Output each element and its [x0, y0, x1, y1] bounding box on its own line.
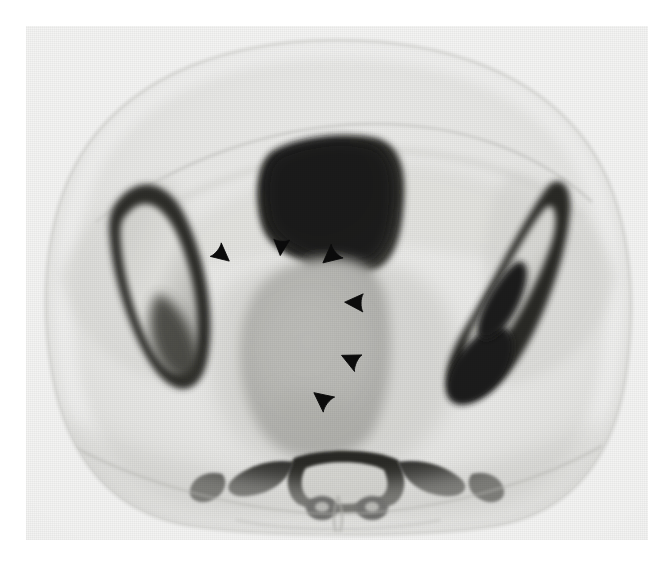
ct-figure	[0, 0, 670, 563]
arrowhead-icon	[341, 289, 367, 315]
ct-scan-image	[26, 26, 648, 540]
arrowhead-2-marker	[269, 235, 293, 259]
arrowhead-icon	[269, 235, 293, 259]
ct-slice-render	[26, 26, 648, 540]
arrowhead-4-marker	[341, 289, 367, 315]
